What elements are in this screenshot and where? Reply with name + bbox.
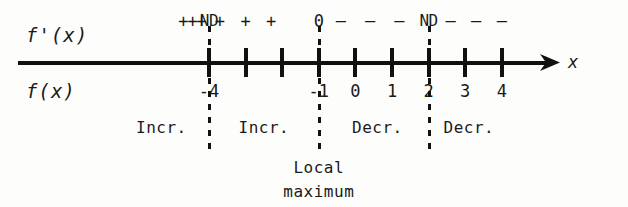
tick-mark <box>463 48 467 77</box>
local-extremum-annotation: Localmaximum <box>283 156 354 204</box>
axis-number-label: 3 <box>460 82 470 101</box>
sign-symbol: – <box>445 12 455 30</box>
tick-mark <box>280 48 284 77</box>
sign-symbol: + <box>215 12 225 30</box>
axis-arrow-icon <box>538 49 566 77</box>
sign-symbol: – <box>365 12 375 30</box>
tick-mark <box>390 48 394 77</box>
derivative-row-label: f'(x) <box>26 24 88 46</box>
critical-point-dashed-line <box>428 26 431 152</box>
tick-mark <box>353 48 357 77</box>
sign-symbol: + <box>266 12 276 30</box>
sign-symbol: – <box>497 12 507 30</box>
axis-number-label: 4 <box>497 82 507 101</box>
interval-behavior-label: Decr. <box>444 118 495 137</box>
interval-behavior-label: Decr. <box>352 118 403 137</box>
sign-symbol: + <box>240 12 250 30</box>
sign-symbol: – <box>336 12 346 30</box>
tick-mark <box>244 48 248 77</box>
derivative-sign-chart: f'(x) f(x) x +++ND+++0–––ND––– -4-101234… <box>0 0 628 207</box>
annotation-line-2: maximum <box>283 180 354 204</box>
axis-number-label: 1 <box>387 82 397 101</box>
function-row-label: f(x) <box>26 80 76 102</box>
critical-point-dashed-line <box>208 26 211 152</box>
critical-point-dashed-line <box>318 26 321 152</box>
sign-symbol: – <box>471 12 481 30</box>
interval-behavior-label: Incr. <box>239 118 290 137</box>
annotation-line-1: Local <box>283 156 354 180</box>
sign-symbol: – <box>394 12 404 30</box>
tick-mark <box>500 48 504 77</box>
axis-number-label: 0 <box>350 82 360 101</box>
interval-behavior-label: Incr. <box>136 118 187 137</box>
axis-variable-label: x <box>568 52 578 72</box>
